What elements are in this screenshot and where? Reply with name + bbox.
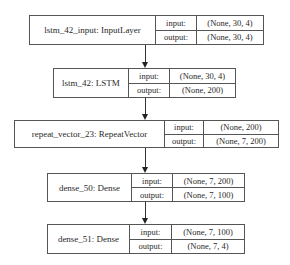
output-port-label: output:	[130, 240, 171, 254]
layer-node-lstm-42: lstm_42: LSTM input: output: (None, 30, …	[53, 68, 236, 98]
input-shape: (None, 200)	[204, 121, 278, 135]
layer-name: dense_50: Dense	[48, 174, 132, 201]
edge-4	[145, 202, 146, 218]
layer-name: lstm_42_input: InputLayer	[30, 16, 156, 44]
layer-name: dense_51: Dense	[48, 225, 130, 253]
layer-name: repeat_vector_23: RepeatVector	[15, 121, 165, 147]
layer-name: lstm_42: LSTM	[54, 69, 129, 97]
edge-1	[145, 45, 146, 62]
input-port-label: input:	[132, 174, 172, 188]
edge-2	[145, 98, 146, 114]
input-port-label: input:	[130, 225, 171, 240]
layer-node-dense-51: dense_51: Dense input: output: (None, 7,…	[47, 224, 245, 254]
input-port-label: input:	[129, 69, 169, 84]
layer-node-lstm-42-input: lstm_42_input: InputLayer input: output:…	[29, 15, 264, 45]
input-port-label: input:	[165, 121, 203, 135]
output-port-label: output:	[156, 31, 196, 45]
output-port-label: output:	[132, 188, 172, 201]
input-port-label: input:	[156, 16, 196, 31]
output-shape: (None, 7, 100)	[173, 188, 244, 201]
input-shape: (None, 7, 100)	[172, 225, 244, 240]
output-shape: (None, 7, 4)	[172, 240, 244, 254]
output-shape: (None, 30, 4)	[197, 31, 263, 45]
layer-node-dense-50: dense_50: Dense input: output: (None, 7,…	[47, 173, 245, 202]
output-port-label: output:	[129, 84, 169, 98]
input-shape: (None, 7, 200)	[173, 174, 244, 188]
output-shape: (None, 200)	[170, 84, 235, 98]
layer-node-repeat-vector-23: repeat_vector_23: RepeatVector input: ou…	[14, 120, 279, 148]
input-shape: (None, 30, 4)	[170, 69, 235, 84]
output-shape: (None, 7, 200)	[204, 135, 278, 148]
input-shape: (None, 30, 4)	[197, 16, 263, 31]
output-port-label: output:	[165, 135, 203, 148]
edge-3	[145, 148, 146, 167]
